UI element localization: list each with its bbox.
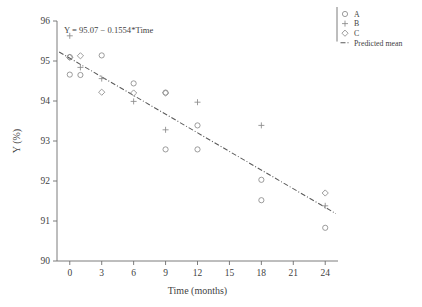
y-tick-label: 91	[41, 216, 51, 226]
data-point-a	[131, 81, 136, 86]
data-point-c	[99, 89, 105, 95]
data-point-a	[99, 53, 104, 58]
data-point-a	[195, 123, 200, 128]
data-point-a	[259, 198, 264, 203]
x-tick-label: 21	[289, 268, 299, 278]
x-tick-label: 9	[163, 268, 168, 278]
y-tick-label: 92	[41, 176, 51, 186]
legend-marker-c	[342, 30, 348, 36]
data-point-c	[77, 53, 83, 59]
legend-marker-a	[342, 11, 347, 16]
x-tick-label: 6	[131, 268, 136, 278]
data-point-c	[131, 90, 137, 96]
x-axis-title: Time (months)	[168, 285, 227, 297]
legend-label-b: B	[354, 19, 359, 28]
x-tick-label: 18	[257, 268, 267, 278]
data-point-a	[195, 147, 200, 152]
legend-label-a: A	[354, 10, 360, 19]
data-point-c	[322, 190, 328, 196]
y-tick-label: 94	[41, 96, 51, 106]
y-tick-label: 96	[41, 16, 51, 26]
data-point-a	[78, 72, 83, 77]
predicted-mean-line	[59, 52, 336, 214]
y-axis-title: Y (%)	[11, 129, 23, 153]
legend-label-predicted-mean: Predicted mean	[354, 39, 402, 48]
data-point-a	[259, 177, 264, 182]
x-tick-label: 12	[193, 268, 203, 278]
y-tick-label: 90	[41, 256, 51, 266]
x-tick-label: 15	[225, 268, 235, 278]
x-tick-label: 24	[320, 268, 330, 278]
x-tick-label: 3	[99, 268, 104, 278]
data-point-a	[323, 225, 328, 230]
legend-label-c: C	[354, 29, 359, 38]
y-tick-label: 93	[41, 136, 51, 146]
scatter-plot: 9091929394959603691215182124Time (months…	[0, 0, 422, 307]
data-point-a	[163, 147, 168, 152]
data-point-a	[67, 72, 72, 77]
chart-container: 9091929394959603691215182124Time (months…	[0, 0, 422, 307]
regression-equation-annotation: Y = 95.07 − 0.1554*Time	[64, 25, 153, 35]
y-tick-label: 95	[41, 56, 51, 66]
x-tick-label: 0	[67, 268, 72, 278]
